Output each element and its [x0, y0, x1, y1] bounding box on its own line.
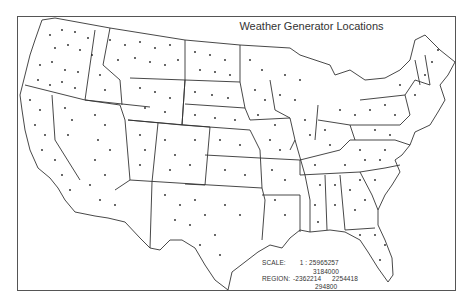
us-map	[0, 0, 473, 306]
scale-value: 1 : 25965257	[300, 259, 339, 266]
scale-row: SCALE: 1 : 25965257	[262, 259, 339, 266]
scale-label: SCALE:	[262, 259, 286, 266]
region-left: -2362214	[293, 275, 321, 282]
region-bottom: 294800	[315, 283, 337, 290]
region-top: 3184000	[313, 268, 339, 275]
us-outline	[20, 18, 455, 290]
region-label: REGION:	[262, 275, 290, 282]
region-right: 2254418	[332, 275, 358, 282]
